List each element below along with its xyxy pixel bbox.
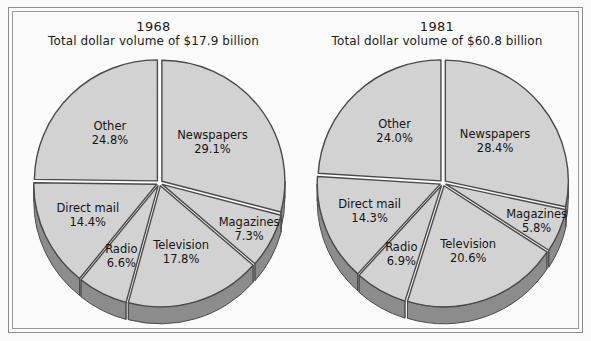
pie-chart-1968[interactable]: Newspapers29.1%Magazines7.3%Television17… [12,11,295,329]
slice-value-television: 20.6% [450,251,487,265]
slice-value-other: 24.8% [92,133,129,147]
chart-panel-1968: 1968 Total dollar volume of $17.9 billio… [12,11,295,329]
figure-canvas: 1968 Total dollar volume of $17.9 billio… [0,0,591,341]
slice-value-other: 24.0% [376,131,413,145]
slice-value-newspapers: 28.4% [477,141,514,155]
slice-label-radio: Radio [105,242,137,256]
slice-value-magazines: 7.3% [234,229,263,243]
slice-label-other: Other [94,119,127,133]
slice-label-magazines: Magazines [506,207,567,221]
slice-label-newspapers: Newspapers [460,127,531,141]
slice-label-magazines: Magazines [219,215,280,229]
chart-panel-1981: 1981 Total dollar volume of $60.8 billio… [295,11,579,329]
slice-value-radio: 6.6% [107,256,136,270]
slice-label-television: Television [439,237,496,251]
slice-value-direct-mail: 14.3% [351,211,388,225]
slice-value-radio: 6.9% [387,254,416,268]
pie-chart-1981[interactable]: Newspapers28.4%Magazines5.8%Television20… [295,11,579,329]
slice-label-other: Other [378,117,411,131]
slice-value-newspapers: 29.1% [194,142,231,156]
pie-svg-1968: Newspapers29.1%Magazines7.3%Television17… [12,11,295,329]
slice-label-direct-mail: Direct mail [56,201,119,215]
slice-value-television: 17.8% [163,252,200,266]
slice-label-television: Television [152,238,209,252]
pie-svg-1981: Newspapers28.4%Magazines5.8%Television20… [295,11,579,329]
slice-value-direct-mail: 14.4% [70,215,107,229]
slice-value-magazines: 5.8% [522,221,551,235]
slice-label-radio: Radio [385,240,417,254]
slice-label-direct-mail: Direct mail [338,197,401,211]
slice-label-newspapers: Newspapers [177,128,248,142]
